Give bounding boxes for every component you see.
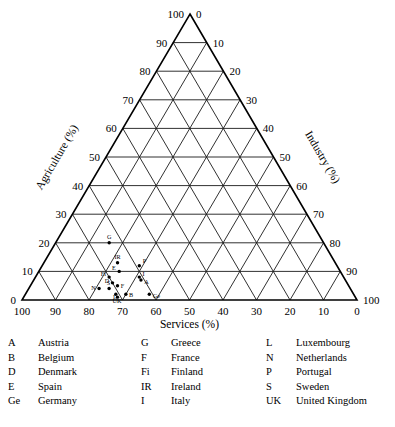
- legend-entry: DDenmark: [8, 365, 141, 380]
- legend-entry-name: Greece: [171, 336, 201, 351]
- legend-entry: BBelgium: [8, 351, 141, 366]
- svg-text:0: 0: [196, 8, 202, 20]
- legend-entry-name: Italy: [171, 394, 190, 409]
- svg-text:40: 40: [263, 122, 275, 134]
- data-point-label: P: [143, 257, 147, 264]
- svg-text:80: 80: [84, 305, 96, 317]
- legend-entry-name: Ireland: [171, 380, 201, 395]
- legend-entry-code: P: [266, 365, 296, 380]
- legend-entry-name: Belgium: [38, 351, 74, 366]
- svg-text:60: 60: [296, 180, 308, 192]
- svg-text:20: 20: [285, 305, 297, 317]
- svg-text:30: 30: [246, 94, 258, 106]
- data-point-label: A: [144, 278, 149, 285]
- svg-text:70: 70: [313, 208, 325, 220]
- legend-entry: IRIreland: [141, 380, 266, 395]
- data-point-label: UK: [113, 297, 122, 304]
- legend-column: LLuxembourgNNetherlandsPPortugalSSwedenU…: [266, 336, 395, 427]
- legend-entry: ESpain: [8, 380, 141, 395]
- data-point-label: IR: [114, 253, 121, 260]
- legend-entry: PPortugal: [266, 365, 395, 380]
- legend-entry-name: Spain: [38, 380, 62, 395]
- svg-text:10: 10: [22, 265, 34, 277]
- data-point-label: E: [112, 264, 116, 271]
- data-point-label: Ge: [153, 292, 160, 299]
- svg-text:90: 90: [156, 37, 168, 49]
- svg-text:0: 0: [11, 294, 17, 306]
- data-point-label: B: [129, 291, 133, 298]
- right-axis-title: Industry (%): [302, 129, 343, 186]
- legend-entry-name: Sweden: [296, 380, 329, 395]
- legend-entry-code: G: [141, 336, 171, 351]
- svg-text:90: 90: [346, 265, 358, 277]
- svg-text:80: 80: [139, 65, 151, 77]
- data-point-label: I: [142, 270, 144, 277]
- legend-entry: GGreece: [141, 336, 266, 351]
- data-point: IR: [114, 253, 121, 265]
- svg-text:0: 0: [354, 305, 360, 317]
- data-point-label: Fi: [101, 270, 106, 277]
- legend-entry-code: L: [266, 336, 296, 351]
- svg-text:50: 50: [280, 151, 292, 163]
- bottom-axis-title: Services (%): [160, 318, 219, 331]
- legend-entry-name: Netherlands: [296, 351, 347, 366]
- legend-column: AAustriaBBelgiumDDenmarkESpainGeGermany: [8, 336, 141, 427]
- legend-column: GGreeceFFranceFiFinlandIRIrelandIItaly: [141, 336, 266, 427]
- svg-text:30: 30: [55, 208, 67, 220]
- svg-text:100: 100: [168, 8, 185, 20]
- legend-entry: UKUnited Kingdom: [266, 394, 395, 409]
- legend-entry-code: F: [141, 351, 171, 366]
- svg-text:50: 50: [89, 151, 101, 163]
- legend-entry-name: United Kingdom: [296, 394, 367, 409]
- svg-text:40: 40: [218, 305, 230, 317]
- legend-entry-code: UK: [266, 394, 296, 409]
- legend-entry-name: Austria: [38, 336, 69, 351]
- svg-text:30: 30: [251, 305, 263, 317]
- data-point-label: G: [107, 233, 112, 240]
- data-point: UK: [113, 295, 122, 303]
- legend-entry-code: I: [141, 394, 171, 409]
- svg-text:70: 70: [123, 94, 135, 106]
- legend-entry: AAustria: [8, 336, 141, 351]
- country-code-legend: AAustriaBBelgiumDDenmarkESpainGeGermanyG…: [0, 336, 395, 427]
- legend-entry: FiFinland: [141, 365, 266, 380]
- legend-entry-code: D: [8, 365, 38, 380]
- data-point: Ge: [148, 292, 161, 299]
- svg-text:100: 100: [363, 294, 380, 306]
- data-point: B: [124, 291, 133, 298]
- svg-text:80: 80: [330, 237, 342, 249]
- grid-lines: [39, 43, 341, 300]
- legend-entry-name: Portugal: [296, 365, 332, 380]
- data-point-label: N: [91, 284, 96, 291]
- data-point: A: [139, 278, 149, 285]
- legend-entry-name: France: [171, 351, 200, 366]
- legend-entry-code: A: [8, 336, 38, 351]
- legend-entry: LLuxembourg: [266, 336, 395, 351]
- svg-text:10: 10: [213, 37, 225, 49]
- data-points: GIRPEIAFiDFSNLBGeUK: [91, 233, 160, 304]
- svg-text:90: 90: [50, 305, 62, 317]
- svg-text:100: 100: [14, 305, 31, 317]
- legend-entry-name: Germany: [38, 394, 77, 409]
- data-point-label: S: [107, 279, 111, 286]
- svg-text:50: 50: [184, 305, 196, 317]
- bottom-axis-ticks: 1009080706050403020100: [14, 305, 361, 317]
- legend-entry-code: N: [266, 351, 296, 366]
- legend-entry-code: E: [8, 380, 38, 395]
- svg-text:60: 60: [151, 305, 163, 317]
- data-point: F: [116, 282, 125, 289]
- svg-text:40: 40: [72, 180, 84, 192]
- legend-entry: FFrance: [141, 351, 266, 366]
- data-point-label: F: [121, 282, 125, 289]
- legend-entry: NNetherlands: [266, 351, 395, 366]
- legend-entry: IItaly: [141, 394, 266, 409]
- legend-entry-code: IR: [141, 380, 171, 395]
- legend-entry: GeGermany: [8, 394, 141, 409]
- svg-text:60: 60: [106, 122, 118, 134]
- legend-entry-name: Finland: [171, 365, 203, 380]
- legend-entry-code: S: [266, 380, 296, 395]
- legend-entry-name: Luxembourg: [296, 336, 350, 351]
- svg-text:20: 20: [39, 237, 51, 249]
- svg-text:10: 10: [318, 305, 330, 317]
- legend-entry-code: Fi: [141, 365, 171, 380]
